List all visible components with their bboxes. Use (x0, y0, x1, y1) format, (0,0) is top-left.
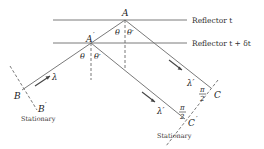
right-angle-label-c: π 2 (199, 86, 206, 103)
reflected-ray-from-a-prime (91, 43, 185, 119)
angle-theta-prime-at-a: θ′ (127, 28, 134, 37)
point-b-prime-label: B (37, 104, 45, 114)
arrow-icon-incident (35, 76, 50, 86)
point-a-label: A (121, 8, 129, 18)
point-a-prime-label: A (85, 34, 93, 44)
stationary-label-b: Stationary (21, 115, 56, 123)
angle-theta-at-a-prime: θ (80, 52, 85, 61)
arrow-icon-reflected-a (169, 60, 182, 70)
reflected-ray-from-a (125, 20, 211, 88)
point-b-label: B (13, 91, 21, 101)
point-c-label: C (214, 90, 221, 100)
svg-text:π: π (179, 104, 185, 112)
svg-text:π: π (199, 86, 205, 94)
wavelength-incident-label: λ (51, 72, 57, 82)
reflector-t-label: Reflector t (192, 16, 232, 25)
incident-ray (22, 20, 125, 90)
angle-theta-prime-at-a-prime: θ′ (94, 52, 101, 61)
reflection-diagram: Reflector t Reflector t + δt A A ′ B B ′… (0, 0, 264, 149)
point-b-prime-mark: ′ (45, 101, 47, 109)
reflector-t-plus-dt-label: Reflector t + δt (192, 39, 251, 48)
wavelength-reflected-a-prime-label: λ′ (156, 106, 164, 116)
stationary-label-c: Stationary (157, 132, 192, 140)
svg-text:2: 2 (199, 95, 205, 103)
stationary-wavefront-b (10, 66, 37, 110)
svg-text:2: 2 (179, 113, 185, 121)
point-a-prime-mark: ′ (93, 31, 95, 39)
wavelength-reflected-a-label: λ′ (186, 78, 194, 88)
angle-theta-at-a: θ (115, 28, 120, 37)
point-c-prime-mark: ′ (196, 115, 198, 123)
point-c-prime-label: C (188, 118, 195, 128)
